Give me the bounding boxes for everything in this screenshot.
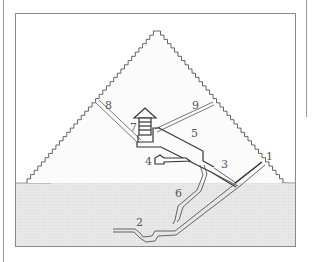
label-2: 2 xyxy=(136,216,143,229)
label-4: 4 xyxy=(145,155,152,168)
label-3: 3 xyxy=(221,158,228,171)
label-8: 8 xyxy=(105,99,112,112)
label-7: 7 xyxy=(130,121,137,134)
pyramid-cross-section-diagram: 1 2 3 4 5 6 7 8 9 xyxy=(0,0,313,262)
bedrock-ground xyxy=(16,179,295,246)
label-1: 1 xyxy=(266,150,273,163)
label-9: 9 xyxy=(192,99,199,112)
label-5: 5 xyxy=(191,127,198,140)
label-6: 6 xyxy=(175,187,182,200)
